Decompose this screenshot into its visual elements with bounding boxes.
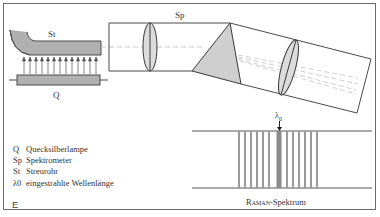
legend-key: Sp bbox=[13, 155, 26, 166]
label-streurohr: St bbox=[48, 30, 56, 39]
legend-key: λ0 bbox=[13, 178, 26, 189]
caption-rest: -Spektrum bbox=[270, 197, 306, 207]
raman-spectrum bbox=[192, 121, 372, 188]
mercury-lamp bbox=[9, 75, 108, 85]
prism bbox=[192, 23, 241, 84]
legend-key: Q bbox=[13, 144, 26, 155]
label-lambda0: λ0 bbox=[275, 112, 282, 122]
lens-1 bbox=[143, 23, 157, 71]
legend-text: Spektrometer bbox=[26, 155, 72, 166]
legend-item: QQuecksilberlampe bbox=[13, 144, 114, 155]
legend-item: λ0eingestrahlte Wellenlänge bbox=[13, 178, 114, 189]
spectrometer-camera-tube bbox=[230, 23, 371, 113]
legend-key: St bbox=[13, 166, 26, 177]
caption-smallcaps: Raman bbox=[246, 197, 270, 207]
figure-corner-label: E bbox=[12, 199, 18, 210]
legend: QQuecksilberlampe SpSpektrometer StStreu… bbox=[13, 144, 114, 189]
legend-text: Quecksilberlampe bbox=[26, 144, 88, 155]
lambda-subscript: 0 bbox=[279, 116, 282, 122]
legend-text: Streurohr bbox=[26, 166, 58, 177]
label-lampe: Q bbox=[53, 91, 60, 100]
label-spektrometer: Sp bbox=[175, 11, 185, 20]
legend-item: StStreurohr bbox=[13, 166, 114, 177]
lens-2 bbox=[274, 38, 302, 97]
legend-text: eingestrahlte Wellenlänge bbox=[26, 178, 114, 189]
illumination-arrows bbox=[23, 57, 98, 74]
spectrum-caption: Raman-Spektrum bbox=[246, 197, 306, 207]
legend-item: SpSpektrometer bbox=[13, 155, 114, 166]
